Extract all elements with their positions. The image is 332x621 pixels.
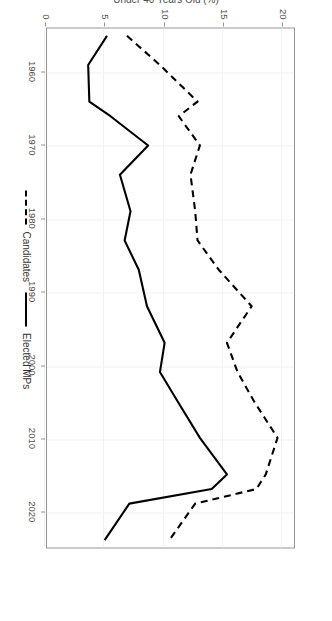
x-axis-tick bbox=[41, 144, 45, 145]
x-axis-tick bbox=[41, 438, 45, 439]
y-axis-tick bbox=[164, 22, 165, 26]
y-axis-tick bbox=[223, 22, 224, 26]
y-axis-tick bbox=[45, 22, 46, 26]
gridline-horizontal bbox=[44, 28, 45, 547]
x-axis-tick bbox=[41, 291, 45, 292]
legend-item-candidates: Candidates bbox=[21, 190, 32, 282]
y-axis-title: Under 40 Years Old (%) bbox=[113, 0, 219, 4]
legend-label-candidates: Candidates bbox=[21, 231, 32, 282]
x-axis-tick-label: 1960 bbox=[27, 60, 38, 81]
x-axis-tick-label: 1970 bbox=[27, 134, 38, 155]
rotated-figure-wrapper: 1960197019801990200020102020 05101520 Un… bbox=[0, 0, 332, 621]
y-axis-tick-label: 0 bbox=[41, 0, 52, 19]
x-axis-tick bbox=[41, 365, 45, 366]
x-axis-tick-label: 2020 bbox=[27, 501, 38, 522]
series-line-candidates bbox=[127, 35, 278, 539]
legend-item-elected-mps: Elected MPs bbox=[21, 292, 32, 389]
y-axis-tick bbox=[104, 22, 105, 26]
plot-panel bbox=[46, 27, 295, 548]
y-axis-tick-label: 15 bbox=[218, 0, 229, 19]
x-axis-tick bbox=[41, 71, 45, 72]
series-line-elected-mps bbox=[88, 35, 227, 539]
series-lines bbox=[47, 28, 294, 547]
x-axis-tick bbox=[41, 218, 45, 219]
y-axis-tick bbox=[282, 22, 283, 26]
legend-key-solid-icon bbox=[26, 292, 28, 326]
legend-label-elected-mps: Elected MPs bbox=[21, 333, 32, 389]
y-axis-tick-label: 20 bbox=[278, 0, 289, 19]
y-axis-tick-label: 5 bbox=[100, 0, 111, 19]
x-axis-tick bbox=[41, 511, 45, 512]
x-axis-tick-label: 2010 bbox=[27, 427, 38, 448]
legend-key-dashed-icon bbox=[26, 190, 28, 224]
chart-legend: Candidates Elected MPs bbox=[21, 190, 32, 389]
chart-figure: 1960197019801990200020102020 05101520 Un… bbox=[0, 0, 332, 621]
